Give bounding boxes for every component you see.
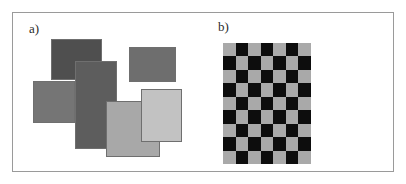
checkerboard-cell-light [286,83,299,96]
checkerboard-cell-light [248,151,261,164]
checkerboard-cell-dark [248,137,261,150]
checkerboard-cell-dark [261,97,274,110]
checkerboard-cell-light [248,70,261,83]
checkerboard-cell-dark [261,124,274,137]
checkerboard-cell-light [236,83,249,96]
checkerboard-cell-light [273,43,286,56]
checkerboard-cell-light [248,43,261,56]
checkerboard-cell-light [273,70,286,83]
checkerboard-cell-dark [236,151,249,164]
checkerboard-cell-light [273,97,286,110]
checkerboard-cell-light [236,137,249,150]
checkerboard-cell-dark [223,110,236,123]
checkerboard-cell-light [286,56,299,69]
checkerboard-cell-dark [248,56,261,69]
panel-b-label: b) [218,20,229,33]
checkerboard-cell-dark [286,70,299,83]
checkerboard-cell-dark [248,110,261,123]
checkerboard-cell-light [261,56,274,69]
checkerboard-cell-light [248,97,261,110]
checkerboard-cell-light [223,151,236,164]
checkerboard-cell-dark [236,97,249,110]
checkerboard-cell-light [286,110,299,123]
panel-a: a) [13,13,204,171]
checkerboard-cell-dark [286,151,299,164]
figure-outer-frame: a) b) [12,12,394,172]
panel-b: b) [204,13,395,171]
checkerboard-cell-dark [298,83,311,96]
checkerboard-cell-dark [298,137,311,150]
checkerboard-cell-dark [273,137,286,150]
checkerboard-cell-light [261,137,274,150]
checkerboard-cell-dark [273,56,286,69]
rect-lightest-right [141,89,182,142]
figure-root: a) b) [0,0,406,184]
checkerboard-cell-light [248,124,261,137]
checkerboard-cell-dark [298,56,311,69]
checkerboard-cell-light [273,151,286,164]
checkerboard-cell-light [298,43,311,56]
checkerboard-grid [223,43,311,164]
checkerboard-cell-light [286,137,299,150]
checkerboard-cell-dark [298,110,311,123]
checkerboard-cell-dark [261,70,274,83]
checkerboard-cell-light [261,83,274,96]
checkerboard-cell-dark [236,43,249,56]
checkerboard-cell-dark [261,43,274,56]
checkerboard-cell-light [223,43,236,56]
rect-medium-upper-right [129,47,176,82]
checkerboard-cell-light [273,124,286,137]
checkerboard-cell-dark [223,137,236,150]
panel-a-label: a) [29,22,39,35]
checkerboard-cell-dark [273,83,286,96]
checkerboard-cell-light [298,70,311,83]
checkerboard-cell-dark [273,110,286,123]
checkerboard-cell-dark [223,56,236,69]
checkerboard-cell-light [236,110,249,123]
checkerboard-cell-light [223,97,236,110]
checkerboard-cell-light [298,97,311,110]
checkerboard-cell-dark [286,43,299,56]
checkerboard-cell-light [261,110,274,123]
checkerboard-cell-dark [236,124,249,137]
rect-gray-left [33,81,75,123]
checkerboard-cell-light [298,151,311,164]
checkerboard-cell-light [223,124,236,137]
checkerboard-cell-light [298,124,311,137]
checkerboard-cell-dark [286,124,299,137]
checkerboard-cell-dark [286,97,299,110]
checkerboard-cell-dark [261,151,274,164]
checkerboard-cell-dark [223,83,236,96]
checkerboard-cell-light [223,70,236,83]
checkerboard-cell-dark [236,70,249,83]
checkerboard-cell-light [236,56,249,69]
checkerboard-cell-dark [248,83,261,96]
